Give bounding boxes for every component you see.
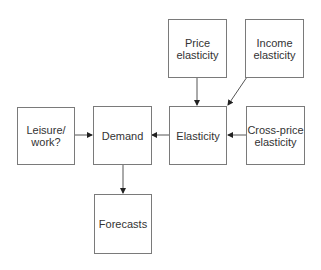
node-label: Income elasticity: [246, 37, 303, 61]
node-forecasts: Forecasts: [94, 194, 152, 254]
node-elasticity: Elasticity: [169, 106, 227, 165]
node-leisure-work: Leisure/ work?: [17, 107, 75, 165]
node-label: Demand: [102, 130, 144, 142]
node-price-elasticity: Price elasticity: [168, 19, 227, 78]
node-label: Leisure/ work?: [18, 124, 74, 148]
node-label: Cross-price elasticity: [247, 124, 304, 148]
node-label: Forecasts: [99, 218, 147, 230]
arrow-income-to-elasticity: [228, 77, 247, 105]
node-cross-price-elasticity: Cross-price elasticity: [246, 106, 305, 165]
node-demand: Demand: [93, 106, 152, 165]
node-income-elasticity: Income elasticity: [245, 19, 304, 78]
node-label: Price elasticity: [169, 37, 226, 61]
node-label: Elasticity: [176, 130, 219, 142]
